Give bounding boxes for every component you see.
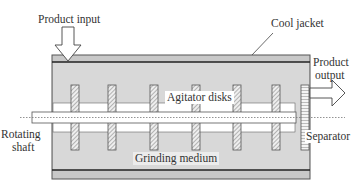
cool-jacket-label: Cool jacket	[271, 17, 324, 30]
product-output-arrow	[310, 80, 345, 106]
cool-jacket-leader	[252, 33, 273, 55]
agitator-disks-label: Agitator disks	[165, 91, 234, 104]
grinding-medium-label: Grinding medium	[133, 152, 219, 165]
product-input-label: Product input	[38, 13, 100, 26]
product-output-label-line2: output	[315, 69, 344, 82]
product-output-label-line1: Product	[313, 56, 349, 69]
rotating-shaft-label-line2: shaft	[12, 141, 34, 154]
rotating-shaft-label-line1: Rotating	[1, 128, 41, 141]
separator-label: Separator	[305, 130, 351, 143]
